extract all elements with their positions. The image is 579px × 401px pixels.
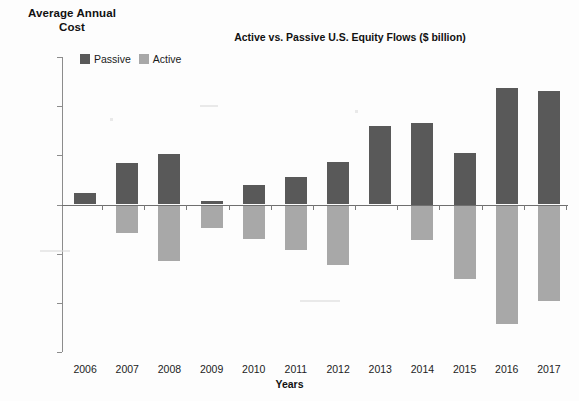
- bar-active: [116, 205, 138, 233]
- bar-active: [201, 205, 223, 228]
- x-tick: [102, 205, 103, 210]
- chart-title: Active vs. Passive U.S. Equity Flows ($ …: [150, 31, 550, 43]
- x-tick-label: 2010: [234, 363, 274, 375]
- bar-passive: [411, 123, 433, 204]
- x-tick-label: 2013: [360, 363, 400, 375]
- x-tick: [397, 205, 398, 210]
- x-tick-label: 2007: [107, 363, 147, 375]
- y-tick: [57, 303, 62, 304]
- x-tick: [524, 205, 525, 210]
- x-tick: [355, 205, 356, 210]
- bar-passive: [454, 153, 476, 205]
- scan-artifact: [200, 105, 218, 107]
- y-axis-caption: Average Annual Cost: [16, 6, 128, 34]
- x-tick: [144, 205, 145, 210]
- bar-active: [411, 205, 433, 240]
- bar-active: [243, 205, 265, 240]
- bar-passive: [158, 154, 180, 205]
- scan-artifact: [355, 110, 358, 113]
- bar-active: [158, 205, 180, 262]
- x-tick-label: 2011: [276, 363, 316, 375]
- bar-passive: [538, 91, 560, 204]
- y-tick: [57, 254, 62, 255]
- x-tick: [313, 205, 314, 210]
- x-tick-label: 2016: [487, 363, 527, 375]
- scan-artifact: [300, 300, 340, 302]
- x-axis-caption: Years: [0, 378, 579, 390]
- bar-passive: [285, 177, 307, 204]
- bar-passive: [327, 162, 349, 204]
- bar-active: [285, 205, 307, 251]
- x-tick: [271, 205, 272, 210]
- bar-active: [496, 205, 518, 325]
- x-tick-label: 2006: [65, 363, 105, 375]
- x-tick: [439, 205, 440, 210]
- bar-passive: [369, 126, 391, 205]
- y-axis-caption-line2: Cost: [16, 20, 128, 34]
- chart-figure: Average Annual Cost Active vs. Passive U…: [0, 0, 579, 401]
- y-tick: [57, 155, 62, 156]
- bar-active: [538, 205, 560, 301]
- x-tick: [229, 205, 230, 210]
- scan-artifact: [110, 118, 113, 121]
- y-axis-caption-line1: Average Annual: [16, 6, 128, 20]
- bar-active: [454, 205, 476, 280]
- bar-passive: [243, 185, 265, 204]
- x-tick-label: 2014: [402, 363, 442, 375]
- plot-area: 3002001000-100-200-300 20062007200820092…: [62, 57, 568, 352]
- x-tick: [186, 205, 187, 210]
- x-tick-label: 2015: [445, 363, 485, 375]
- x-tick: [482, 205, 483, 210]
- bar-passive: [116, 163, 138, 204]
- y-tick: [57, 106, 62, 107]
- x-tick-label: 2012: [318, 363, 358, 375]
- zero-baseline: [62, 205, 568, 206]
- x-tick-label: 2017: [529, 363, 569, 375]
- bar-passive: [74, 193, 96, 204]
- x-tick-label: 2008: [149, 363, 189, 375]
- bar-passive: [496, 88, 518, 205]
- y-tick: [57, 57, 62, 58]
- x-tick-label: 2009: [192, 363, 232, 375]
- scan-artifact: [40, 250, 70, 252]
- y-tick: [57, 352, 62, 353]
- x-tick: [566, 205, 567, 210]
- bar-active: [327, 205, 349, 266]
